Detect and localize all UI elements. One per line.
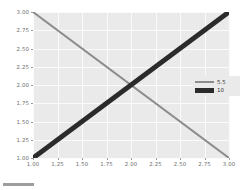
x-tick-mark <box>82 158 83 160</box>
y-tick-mark <box>31 12 33 13</box>
x-tick-mark <box>58 158 59 160</box>
y-tick-mark <box>31 67 33 68</box>
legend-swatch-55 <box>195 81 214 83</box>
x-tick-label: 3.00 <box>219 161 239 167</box>
bottom-legend-swatch <box>3 183 34 186</box>
x-tick-mark <box>229 158 230 160</box>
x-tick-mark <box>156 158 157 160</box>
y-tick-mark <box>31 122 33 123</box>
y-tick-mark <box>31 49 33 50</box>
x-tick-mark <box>131 158 132 160</box>
x-tick-label: 2.50 <box>170 161 190 167</box>
x-tick-label: 1.50 <box>72 161 92 167</box>
x-tick-label: 2.25 <box>146 161 166 167</box>
bottom-legend-strip <box>3 182 123 190</box>
chart-figure: 3.002.752.502.252.001.751.501.251.00 1.0… <box>0 0 241 190</box>
y-tick-mark <box>31 30 33 31</box>
legend-label-55: 5.5 <box>217 79 226 85</box>
legend-item-10[interactable]: 10 <box>195 86 239 94</box>
y-tick-label: 2.00 <box>17 82 29 88</box>
legend-swatch-10 <box>195 88 214 93</box>
x-tick-mark <box>33 158 34 160</box>
x-tick-label: 1.75 <box>97 161 117 167</box>
y-tick-mark <box>31 85 33 86</box>
y-tick-mark <box>31 103 33 104</box>
x-tick-mark <box>205 158 206 160</box>
y-tick-mark <box>31 140 33 141</box>
legend-item-55[interactable]: 5.5 <box>195 78 239 86</box>
y-tick-label: 3.00 <box>17 9 29 15</box>
y-tick-label: 2.50 <box>17 46 29 52</box>
x-tick-label: 2.75 <box>195 161 215 167</box>
x-tick-mark <box>107 158 108 160</box>
y-tick-label: 1.25 <box>17 137 29 143</box>
chart-legend: 5.5 10 <box>193 76 240 96</box>
x-tick-label: 1.25 <box>48 161 68 167</box>
y-tick-label: 1.50 <box>17 119 29 125</box>
x-tick-mark <box>180 158 181 160</box>
y-tick-label: 2.25 <box>17 64 29 70</box>
x-tick-label: 2.00 <box>121 161 141 167</box>
y-tick-label: 1.75 <box>17 100 29 106</box>
x-tick-label: 1.00 <box>23 161 43 167</box>
y-tick-label: 2.75 <box>17 27 29 33</box>
legend-label-10: 10 <box>217 87 224 93</box>
